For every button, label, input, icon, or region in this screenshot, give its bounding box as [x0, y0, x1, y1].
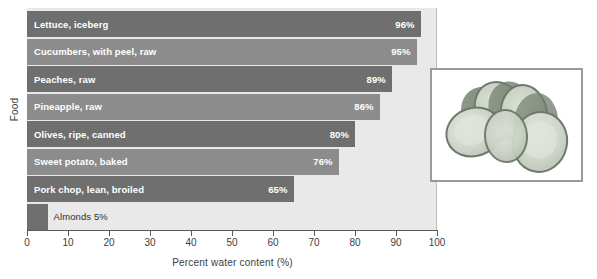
bar-value-label: 89%: [367, 74, 392, 85]
x-tick-label: 60: [267, 237, 278, 248]
bar[interactable]: Pineapple, raw86%: [27, 94, 380, 120]
bar-value-label: 80%: [330, 129, 355, 140]
bar-category-label: Pork chop, lean, broiled: [27, 184, 144, 195]
bar[interactable]: Sweet potato, baked76%: [27, 149, 339, 175]
plot-area: Lettuce, iceberg96%Cucumbers, with peel,…: [27, 8, 437, 230]
bar[interactable]: [27, 204, 48, 230]
bar-category-label: Cucumbers, with peel, raw: [27, 46, 156, 57]
bar-value-label: 86%: [354, 101, 379, 112]
bar-row[interactable]: Sweet potato, baked76%: [27, 149, 437, 175]
x-tick-label: 10: [62, 237, 73, 248]
x-tick-label: 80: [349, 237, 360, 248]
bar[interactable]: Peaches, raw89%: [27, 66, 392, 92]
x-tick-mark: [232, 231, 233, 236]
x-axis-title: Percent water content (%): [27, 257, 438, 268]
x-tick-mark: [355, 231, 356, 236]
bar-category-label: Peaches, raw: [27, 74, 95, 85]
bar-series: Lettuce, iceberg96%Cucumbers, with peel,…: [27, 8, 436, 230]
x-tick-mark: [191, 231, 192, 236]
x-tick-mark: [68, 231, 69, 236]
cucumber-slices-photo: [430, 68, 583, 182]
x-tick-label: 90: [390, 237, 401, 248]
bar-category-label: Lettuce, iceberg: [27, 19, 108, 30]
bar-row[interactable]: Lettuce, iceberg96%: [27, 11, 437, 37]
x-tick-mark: [109, 231, 110, 236]
bar-row[interactable]: Olives, ripe, canned80%: [27, 121, 437, 147]
x-tick-label: 70: [308, 237, 319, 248]
x-tick-label: 50: [226, 237, 237, 248]
x-tick-mark: [273, 231, 274, 236]
bar-category-label: Sweet potato, baked: [27, 156, 128, 167]
bar-value-label: 96%: [395, 19, 420, 30]
bar-row[interactable]: Pineapple, raw86%: [27, 94, 437, 120]
cucumber-slices-illustration: [432, 70, 581, 180]
x-tick-label: 100: [429, 237, 446, 248]
bar-category-label: Pineapple, raw: [27, 101, 102, 112]
bar-row[interactable]: Almonds 5%: [27, 204, 437, 230]
x-tick-label: 0: [24, 237, 30, 248]
x-tick-mark: [27, 231, 28, 236]
x-tick-mark: [437, 231, 438, 236]
bar-category-label: Olives, ripe, canned: [27, 129, 126, 140]
bar-value-label: 76%: [313, 156, 338, 167]
bar-value-label: 95%: [391, 46, 416, 57]
bar-value-label: 65%: [268, 184, 293, 195]
y-axis-title: Food: [9, 80, 20, 140]
x-tick-label: 40: [185, 237, 196, 248]
x-tick-mark: [396, 231, 397, 236]
bar-chart: Food Lettuce, iceberg96%Cucumbers, with …: [0, 0, 597, 279]
bar-outside-label: Almonds 5%: [48, 211, 108, 222]
bar[interactable]: Lettuce, iceberg96%: [27, 11, 421, 37]
x-axis-ticks: [27, 231, 438, 236]
x-tick-label: 20: [103, 237, 114, 248]
bar[interactable]: Pork chop, lean, broiled65%: [27, 176, 294, 202]
bar-row[interactable]: Peaches, raw89%: [27, 66, 437, 92]
bar[interactable]: Cucumbers, with peel, raw95%: [27, 39, 417, 65]
x-tick-mark: [150, 231, 151, 236]
x-tick-mark: [314, 231, 315, 236]
bar-row[interactable]: Pork chop, lean, broiled65%: [27, 176, 437, 202]
bar-row[interactable]: Cucumbers, with peel, raw95%: [27, 39, 437, 65]
x-tick-label: 30: [144, 237, 155, 248]
bar[interactable]: Olives, ripe, canned80%: [27, 121, 355, 147]
